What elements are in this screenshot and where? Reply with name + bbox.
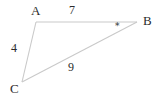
side-length-label-ab: 7 — [69, 4, 75, 16]
triangle-figure: ∗ A B C 7 4 9 — [0, 0, 161, 104]
triangle-drawing: ∗ — [0, 0, 161, 104]
side-cb-line — [22, 22, 137, 82]
vertex-label-c: C — [10, 82, 19, 95]
side-length-label-cb: 9 — [68, 61, 74, 73]
side-length-label-ac: 4 — [11, 42, 17, 54]
side-ac-line — [22, 22, 36, 82]
angle-mark-b-asterisk-icon: ∗ — [114, 19, 120, 29]
vertex-label-a: A — [31, 4, 40, 17]
vertex-label-b: B — [143, 14, 152, 27]
